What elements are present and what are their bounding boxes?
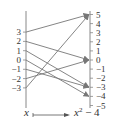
mapping-arrow <box>26 15 89 33</box>
mapping-arrow <box>26 60 89 79</box>
output-expression: x2 − 4 <box>73 106 100 118</box>
arrowhead-icon <box>64 113 70 117</box>
domain-label: −3 <box>11 83 21 93</box>
input-variable: x <box>23 106 29 118</box>
mapping-diagram: 3210−1−2−3543210−1−2−3−4−5 x x2 − 4 <box>0 0 115 130</box>
mapping-arrow <box>26 15 89 88</box>
mapping-arrow <box>26 69 89 87</box>
function-caption: x x2 − 4 <box>23 106 100 118</box>
